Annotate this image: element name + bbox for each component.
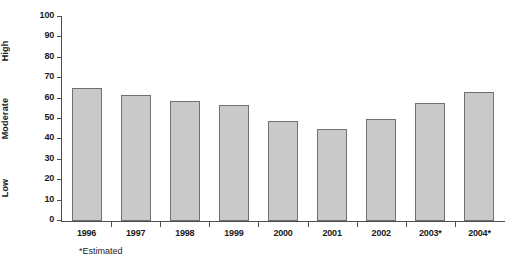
y-tick-label: 100 [40, 10, 54, 20]
zone-label-high: High [0, 17, 10, 84]
x-label-1999: 1999 [209, 228, 258, 238]
x-tick-mark [406, 222, 407, 227]
x-axis-line [61, 221, 505, 222]
x-tick-mark [258, 222, 259, 227]
x-tick-mark [111, 222, 112, 227]
y-tick-label: 30 [44, 153, 54, 163]
bar-2004-est [464, 92, 494, 221]
x-label-2002: 2002 [357, 228, 406, 238]
y-tick-label: 20 [44, 173, 54, 183]
zone-label-moderate: Moderate [0, 84, 10, 153]
x-tick-mark [209, 222, 210, 227]
bar-1999 [219, 105, 249, 221]
bar-chart: 0102030405060708090100 LowModerateHigh 1… [0, 0, 518, 271]
x-label-2000: 2000 [258, 228, 307, 238]
x-label-1997: 1997 [111, 228, 160, 238]
chart-footnote: *Estimated [79, 246, 123, 256]
x-label-1996: 1996 [62, 228, 111, 238]
x-label-1998: 1998 [160, 228, 209, 238]
y-tick-label: 10 [44, 194, 54, 204]
y-tick-label: 90 [44, 30, 54, 40]
y-tick-label: 80 [44, 51, 54, 61]
bar-2001 [317, 129, 347, 221]
bar-1998 [170, 101, 200, 221]
x-tick-mark [160, 222, 161, 227]
y-tick-label: 0 [49, 214, 54, 224]
bar-1997 [121, 95, 151, 221]
x-tick-mark [357, 222, 358, 227]
bar-2002 [366, 119, 396, 221]
bar-2000 [268, 121, 298, 221]
y-tick-label: 70 [44, 71, 54, 81]
zone-label-low: Low [0, 154, 10, 221]
bar-2003-est [415, 103, 445, 221]
x-label-2004-est: 2004* [455, 228, 504, 238]
y-tick-label: 50 [44, 112, 54, 122]
bar-1996 [72, 88, 102, 221]
x-tick-mark [308, 222, 309, 227]
x-tick-mark [455, 222, 456, 227]
plot-area [62, 17, 504, 221]
y-tick-label: 60 [44, 92, 54, 102]
x-label-2003-est: 2003* [406, 228, 455, 238]
x-label-2001: 2001 [308, 228, 357, 238]
y-tick-label: 40 [44, 132, 54, 142]
